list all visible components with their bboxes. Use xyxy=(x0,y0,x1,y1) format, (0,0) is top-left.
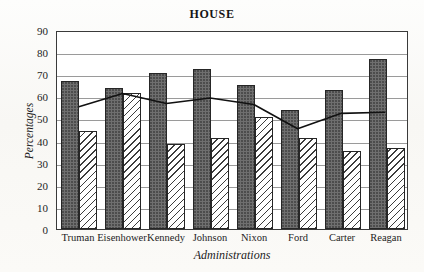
trend-line-path xyxy=(79,94,385,129)
chart-title: HOUSE xyxy=(0,7,424,22)
x-axis-ticks: TrumanEisenhowerKennedyJohnsonNixonFordC… xyxy=(56,232,408,248)
x-axis-tick-label: Eisenhower xyxy=(97,232,147,243)
x-axis-tick-label: Kennedy xyxy=(147,232,185,243)
x-axis-tick-label: Reagan xyxy=(370,232,402,243)
y-axis-tick-label: 70 xyxy=(37,69,48,81)
y-axis-tick-label: 90 xyxy=(37,25,48,37)
y-axis-tick-label: 0 xyxy=(43,224,49,236)
y-axis-tick-label: 80 xyxy=(37,47,48,59)
y-axis-tick-label: 10 xyxy=(37,202,48,214)
y-axis-ticks: 0102030405060708090 xyxy=(0,31,54,230)
y-axis-tick-label: 20 xyxy=(37,180,48,192)
y-axis-tick-label: 30 xyxy=(37,158,48,170)
y-axis-tick-label: 60 xyxy=(37,91,48,103)
y-axis-tick-label: 50 xyxy=(37,113,48,125)
chart-figure: HOUSE Percentages 0102030405060708090 Tr… xyxy=(0,0,424,272)
x-axis-tick-label: Truman xyxy=(62,232,95,243)
line-series-layer xyxy=(57,32,407,230)
x-axis-tick-label: Nixon xyxy=(241,232,267,243)
plot-area xyxy=(56,31,408,230)
x-axis-tick-label: Johnson xyxy=(193,232,227,243)
x-axis-title: Administrations xyxy=(56,248,408,263)
x-axis-tick-label: Carter xyxy=(329,232,355,243)
x-axis-tick-label: Ford xyxy=(288,232,308,243)
y-axis-tick-label: 40 xyxy=(37,136,48,148)
